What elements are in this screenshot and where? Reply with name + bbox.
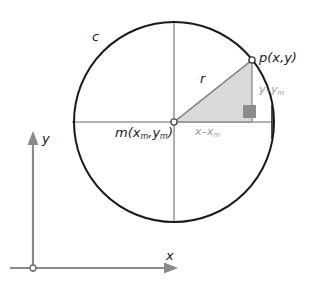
center-m-sub-y: m [160,132,168,141]
delta-y-label: y–ym [259,84,284,96]
circle-label: c [92,30,99,43]
origin-marker [30,265,36,271]
delta-x-sub: m [214,131,221,139]
center-m-mid: ,y [148,125,160,140]
circle-diagram-svg [0,0,315,305]
delta-x-prefix: x–x [195,125,214,138]
y-axis-arrowhead [28,131,39,145]
diagram-canvas: c r p(x,y) m(xm,ym) x–xm y–ym y x [0,0,315,305]
y-axis-label: y [42,132,50,145]
x-axis-label: x [166,249,174,262]
delta-x-label: x–xm [195,126,220,138]
center-m-prefix: m(x [115,125,140,140]
radius-label: r [200,72,205,85]
point-p-marker [249,57,255,63]
center-m-suffix: ) [168,125,173,140]
right-angle-marker [243,105,256,118]
point-p-label: p(x,y) [259,51,297,64]
center-m-label: m(xm,ym) [115,126,173,141]
x-axis-arrowhead [164,263,178,274]
delta-y-sub: m [278,89,285,97]
delta-y-prefix: y–y [259,83,278,96]
